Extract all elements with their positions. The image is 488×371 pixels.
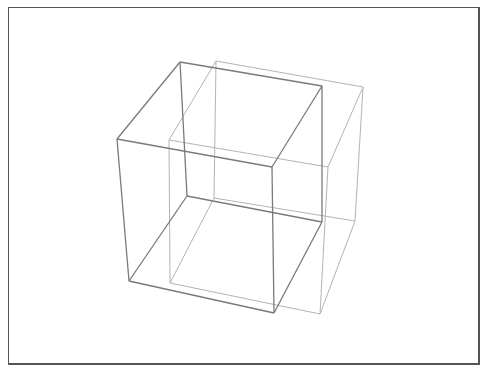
cube-edge bbox=[187, 196, 322, 222]
cube-edge bbox=[355, 87, 363, 221]
back-cube bbox=[169, 61, 363, 314]
cube-edge bbox=[117, 139, 129, 281]
cube-edge bbox=[117, 62, 180, 139]
cube-edge bbox=[180, 62, 187, 196]
cube-edge bbox=[129, 281, 274, 313]
cube-edge bbox=[272, 167, 274, 313]
cube-edge bbox=[170, 283, 320, 314]
cube-edge bbox=[129, 196, 187, 281]
cube-edge bbox=[216, 61, 363, 87]
cube-edge bbox=[274, 222, 322, 313]
cube-diagram bbox=[0, 0, 488, 371]
cube-edge bbox=[320, 167, 328, 314]
cube-edge bbox=[117, 139, 272, 167]
cube-edge bbox=[169, 140, 170, 283]
cube-edge bbox=[272, 86, 322, 167]
cube-edge bbox=[169, 61, 216, 140]
cube-edge bbox=[180, 62, 322, 86]
cube-edge bbox=[214, 198, 355, 221]
cube-edge bbox=[214, 61, 216, 198]
cube-edge bbox=[328, 87, 363, 167]
front-cube bbox=[117, 62, 322, 313]
cube-edge bbox=[320, 221, 355, 314]
